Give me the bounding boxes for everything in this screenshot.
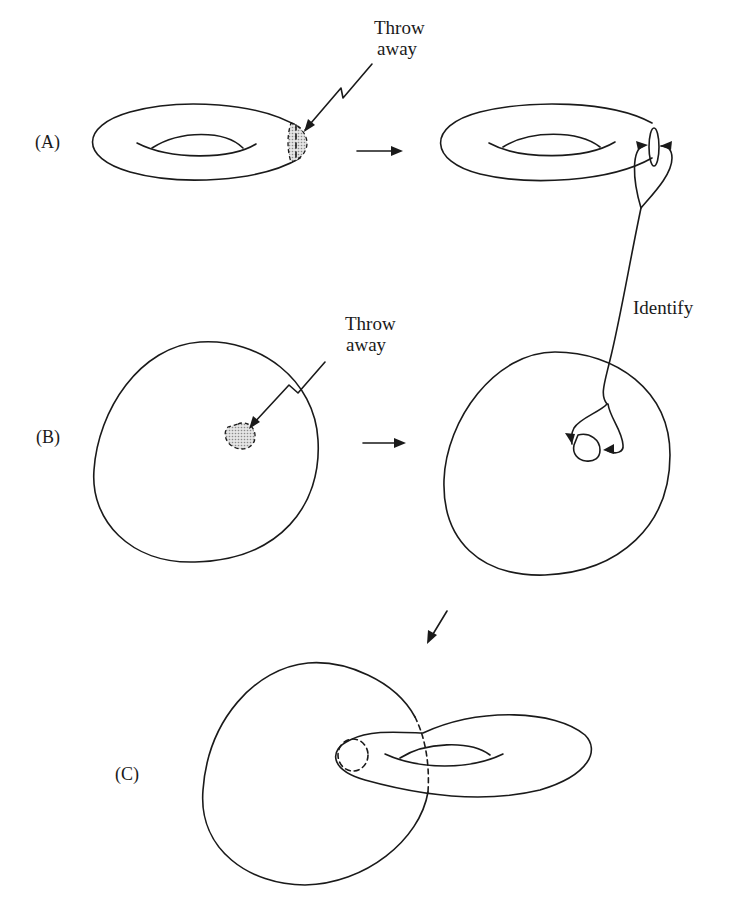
throw-away-label-a-line1: Throw (374, 18, 425, 38)
identify-label: Identify (633, 298, 693, 318)
panel-label-c: (C) (115, 764, 139, 784)
panel-label-b: (B) (36, 427, 60, 447)
right-arrow-a (357, 146, 403, 156)
boundary-circle-a (649, 128, 659, 166)
throw-away-arrow-a (304, 64, 372, 132)
panel-label-a: (A) (35, 132, 60, 152)
boundary-circle-b (574, 434, 600, 461)
throw-away-label-b-line2: away (346, 335, 386, 355)
torus-a-left (93, 104, 308, 180)
figure-drawing (0, 0, 739, 910)
sphere-torus-c (203, 663, 592, 885)
throw-away-label-b-line1: Throw (345, 314, 396, 334)
topology-figure: (A) Throw away (B) Throw away Identify (… (0, 0, 739, 910)
torus-a-right (441, 104, 672, 404)
down-left-arrow-c (427, 611, 447, 644)
right-arrow-b (363, 438, 406, 448)
sphere-b-right (444, 352, 670, 575)
sphere-b-left (94, 342, 319, 562)
shaded-disk-a (288, 123, 307, 162)
throw-away-label-a-line2: away (377, 39, 417, 59)
